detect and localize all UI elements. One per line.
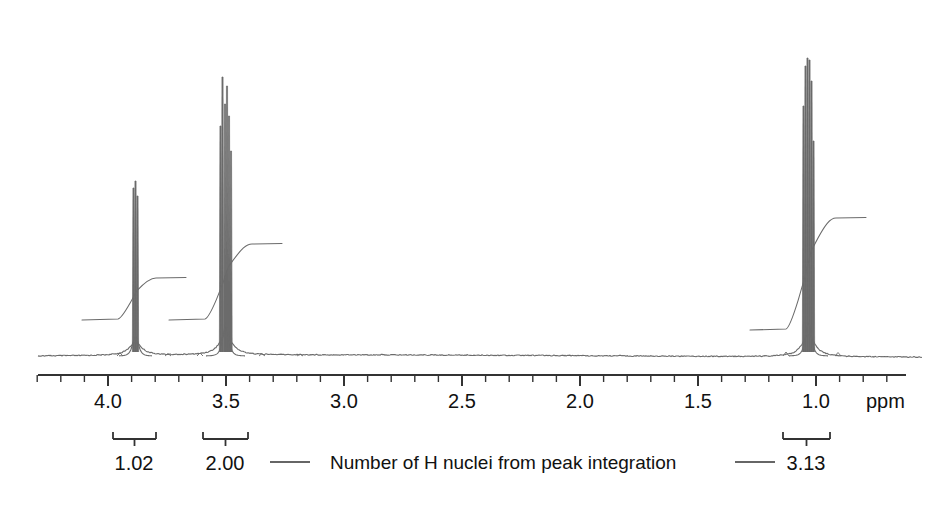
bracket-b xyxy=(203,432,248,446)
integration-curves xyxy=(82,218,866,331)
integration-value: 2.00 xyxy=(206,452,245,475)
integration-value: 1.02 xyxy=(115,452,154,475)
bracket-c xyxy=(783,432,830,446)
axis-tick-label: 1.5 xyxy=(684,390,712,413)
axis-unit-label: ppm xyxy=(866,390,905,413)
nmr-spectrum-figure: 4.03.53.02.52.01.51.0 ppm 1.022.003.13 N… xyxy=(0,0,938,505)
peak-2.00 xyxy=(206,77,245,356)
ppm-axis xyxy=(37,375,906,386)
peak-1.02 xyxy=(119,181,152,356)
axis-tick-label: 4.0 xyxy=(94,390,122,413)
integration-caption: Number of H nuclei from peak integration xyxy=(330,452,676,474)
integration-value: 3.13 xyxy=(787,452,826,475)
axis-tick-label: 3.0 xyxy=(330,390,358,413)
axis-tick-label: 2.0 xyxy=(566,390,594,413)
integration-brackets xyxy=(113,432,830,446)
axis-tick-label: 3.5 xyxy=(212,390,240,413)
spectrum-trace xyxy=(38,58,922,357)
axis-tick-label: 1.0 xyxy=(802,390,830,413)
bracket-a xyxy=(113,432,156,446)
spectrum-canvas xyxy=(0,0,938,505)
axis-tick-label: 2.5 xyxy=(448,390,476,413)
